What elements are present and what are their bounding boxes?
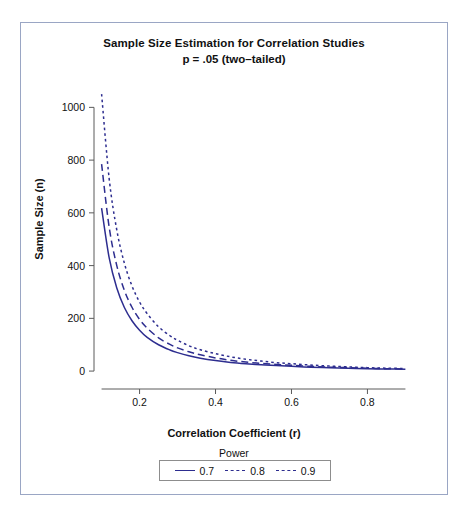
y-tick-label: 600 — [67, 207, 85, 219]
data-curve-power-0.9 — [102, 94, 406, 368]
legend-item-2: 0.9 — [276, 465, 316, 477]
x-tick-label: 0.8 — [360, 396, 375, 408]
x-tick-label: 0.2 — [132, 396, 147, 408]
y-tick-label: 0 — [79, 365, 85, 377]
y-tick-label: 1000 — [62, 101, 86, 113]
y-tick-label: 800 — [67, 154, 85, 166]
data-curve-power-0.7 — [102, 208, 406, 369]
x-tick-label: 0.6 — [284, 396, 299, 408]
curves-group — [102, 94, 406, 369]
figure-frame: Sample Size Estimation for Correlation S… — [20, 22, 448, 495]
legend-item-0: 0.7 — [175, 465, 215, 477]
legend-title: Power — [21, 447, 447, 459]
y-tick-label: 400 — [67, 260, 85, 272]
legend-label-1: 0.8 — [250, 465, 265, 477]
ticks-group — [89, 107, 367, 394]
chart-legend: 0.7 0.8 0.9 — [159, 460, 331, 481]
legend-line-solid-icon — [175, 470, 195, 471]
legend-label-0: 0.7 — [200, 465, 215, 477]
legend-label-2: 0.9 — [301, 465, 316, 477]
axes-group — [94, 107, 405, 389]
legend-line-dotted-icon — [276, 470, 296, 471]
y-tick-label: 200 — [67, 312, 85, 324]
plot-canvas: 020040060080010000.20.40.60.8 — [21, 23, 449, 496]
x-tick-label: 0.4 — [208, 396, 223, 408]
x-axis-label: Correlation Coefficient (r) — [21, 427, 447, 439]
legend-line-dashed-icon — [225, 470, 245, 471]
legend-item-1: 0.8 — [225, 465, 265, 477]
